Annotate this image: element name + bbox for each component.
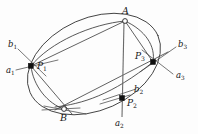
- label-A-text: A: [122, 5, 129, 16]
- chord-A-P1: [31, 21, 125, 66]
- label-b2-subscript: 2: [139, 89, 143, 95]
- label-P2-subscript: 2: [133, 102, 137, 109]
- ray-a3-through-P3: [142, 50, 173, 74]
- label-b3: b3: [178, 40, 187, 51]
- label-P3: P3: [135, 52, 145, 62]
- point-marker-P1: [28, 63, 33, 68]
- label-a2: a2: [115, 119, 124, 130]
- label-b3-subscript: 3: [183, 44, 187, 50]
- point-marker-A: [123, 19, 128, 24]
- point-marker-B: [62, 107, 67, 112]
- geometry-figure: A B P1 P2 P3 b1 a1 b2 a2 b3 a3: [0, 0, 198, 134]
- vertical-segment-A-P2: [122, 22, 124, 117]
- label-b1: b1: [8, 40, 17, 51]
- label-B-text: B: [60, 112, 67, 123]
- label-P2: P2: [127, 99, 137, 109]
- point-marker-P3: [150, 59, 155, 64]
- label-a3-subscript: 3: [181, 75, 185, 81]
- label-P3-subscript: 3: [141, 55, 145, 62]
- label-a1-subscript: 1: [11, 70, 15, 76]
- label-a3: a3: [176, 71, 185, 82]
- label-a2-subscript: 2: [120, 123, 124, 129]
- label-a1: a1: [6, 66, 15, 77]
- figure-canvas: [0, 0, 198, 134]
- label-A: A: [122, 6, 129, 16]
- point-marker-P2: [119, 95, 124, 100]
- arc-P1-to-B: [31, 66, 64, 109]
- label-B: B: [60, 113, 67, 123]
- label-P1: P1: [37, 62, 47, 72]
- label-b2: b2: [134, 85, 143, 96]
- label-b1-subscript: 1: [13, 44, 17, 50]
- label-P1-subscript: 1: [43, 65, 47, 72]
- chord-P1-B: [31, 66, 72, 114]
